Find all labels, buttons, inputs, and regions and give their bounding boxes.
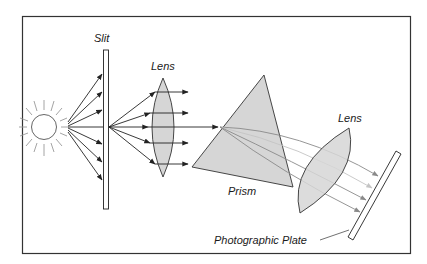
plate-label: Photographic Plate: [214, 234, 307, 246]
lens-2-label: Lens: [338, 112, 362, 124]
slit: [104, 50, 109, 209]
slit-label: Slit: [94, 32, 110, 44]
spectrograph-diagram: Slit Lens Prism Lens Photographic Plate: [0, 0, 427, 264]
prism-label: Prism: [228, 185, 256, 197]
lens-1-label: Lens: [151, 60, 175, 72]
